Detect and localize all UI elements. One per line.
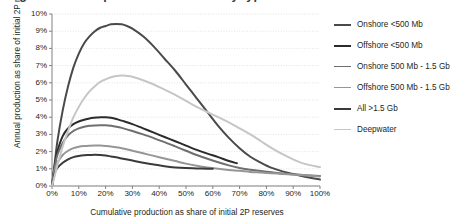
legend-item-label: All >1.5 Gb bbox=[357, 104, 398, 113]
legend-item-5[interactable]: Deepwater bbox=[334, 119, 456, 140]
y-tick-label: 2% bbox=[25, 148, 47, 156]
y-tick-label: 6% bbox=[25, 79, 47, 87]
y-axis-title: Annual production as share of initial 2P… bbox=[12, 0, 22, 148]
legend-swatch-icon bbox=[334, 45, 351, 47]
x-tick-label: 20% bbox=[91, 190, 121, 198]
legend-item-4[interactable]: All >1.5 Gb bbox=[334, 98, 456, 119]
legend-item-3[interactable]: Offshore 500 Mb - 1.5 Gb bbox=[334, 77, 456, 98]
x-tick-label: 60% bbox=[198, 190, 228, 198]
legend-item-label: Offshore <500 Mb bbox=[357, 41, 423, 50]
legend-item-label: Deepwater bbox=[357, 125, 397, 134]
series-line-5 bbox=[52, 75, 320, 186]
x-tick-label: 10% bbox=[64, 190, 94, 198]
series-line-4 bbox=[52, 155, 213, 186]
y-tick-label: 1% bbox=[25, 165, 47, 173]
legend-swatch-icon bbox=[334, 108, 351, 110]
legend-item-label: Onshore <500 Mb bbox=[357, 20, 423, 29]
legend-swatch-icon bbox=[334, 24, 351, 26]
series-line-0 bbox=[52, 24, 320, 186]
x-tick-label: 100% bbox=[305, 190, 335, 198]
x-tick-label: 80% bbox=[251, 190, 281, 198]
chart-figure: Figure: Decline profiles of oil fields b… bbox=[0, 0, 457, 221]
x-tick-label: 30% bbox=[117, 190, 147, 198]
y-tick-label: 4% bbox=[25, 113, 47, 121]
x-tick-label: 70% bbox=[225, 190, 255, 198]
y-tick-label: 9% bbox=[25, 27, 47, 35]
legend-swatch-icon bbox=[334, 87, 351, 88]
figure-title-text: Figure: Decline profiles of oil fields b… bbox=[8, 0, 322, 2]
y-tick-label: 3% bbox=[25, 130, 47, 138]
x-tick-label: 0% bbox=[37, 190, 67, 198]
x-axis-title: Cumulative production as share of initia… bbox=[52, 207, 322, 217]
y-tick-label: 7% bbox=[25, 62, 47, 70]
x-tick-label: 50% bbox=[171, 190, 201, 198]
legend-item-2[interactable]: Onshore 500 Mb - 1.5 Gb bbox=[334, 56, 456, 77]
plot-area bbox=[52, 14, 320, 186]
legend-item-label: Offshore 500 Mb - 1.5 Gb bbox=[357, 83, 450, 92]
y-tick-label: 0% bbox=[25, 182, 47, 190]
plot-canvas bbox=[52, 14, 320, 186]
figure-title-cropped: Figure: Decline profiles of oil fields b… bbox=[0, 0, 457, 9]
chart-legend: Onshore <500 MbOffshore <500 MbOnshore 5… bbox=[334, 14, 456, 140]
legend-swatch-icon bbox=[334, 129, 351, 130]
legend-item-label: Onshore 500 Mb - 1.5 Gb bbox=[357, 62, 450, 71]
legend-item-0[interactable]: Onshore <500 Mb bbox=[334, 14, 456, 35]
x-tick-label: 90% bbox=[278, 190, 308, 198]
y-tick-label: 5% bbox=[25, 96, 47, 104]
x-tick-label: 40% bbox=[144, 190, 174, 198]
legend-swatch-icon bbox=[334, 66, 351, 67]
legend-item-1[interactable]: Offshore <500 Mb bbox=[334, 35, 456, 56]
y-tick-label: 8% bbox=[25, 44, 47, 52]
y-tick-label: 10% bbox=[25, 10, 47, 18]
